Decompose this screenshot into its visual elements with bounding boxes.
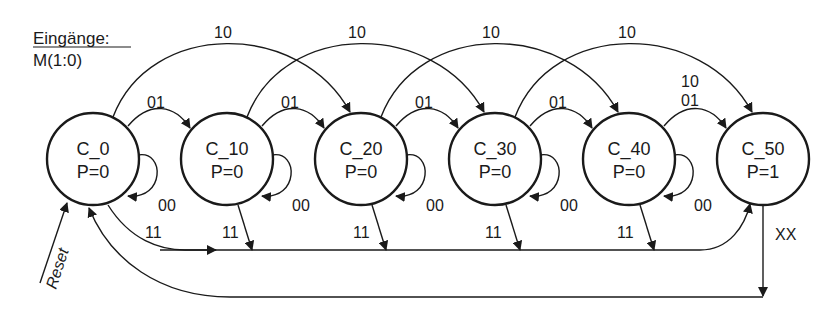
edge-c0-c10 <box>128 109 190 128</box>
label-01: 01 <box>549 94 567 111</box>
label-01-c40-c50: 01 <box>681 92 699 109</box>
state-output: P=0 <box>77 162 110 182</box>
reset-label: Reset <box>43 245 72 291</box>
state-output: P=0 <box>613 162 646 182</box>
state-name: C_50 <box>741 139 784 160</box>
state-output: P=0 <box>211 162 244 182</box>
label-11: 11 <box>617 224 634 241</box>
label-11: 11 <box>353 224 370 241</box>
label-00: 00 <box>426 197 444 214</box>
state-c30: C_30 P=0 <box>449 113 541 205</box>
state-diagram: Eingänge: M(1:0) 10 10 10 10 01 01 01 01… <box>0 0 840 315</box>
state-name: C_40 <box>607 139 650 160</box>
legend-title: Eingänge: <box>33 29 110 48</box>
label-11: 11 <box>485 224 502 241</box>
label-10: 10 <box>214 24 232 41</box>
label-00: 00 <box>560 197 578 214</box>
edge-c20-11 <box>372 205 386 250</box>
state-name: C_20 <box>339 139 382 160</box>
label-00: 00 <box>694 197 712 214</box>
edge-c20-c30 <box>396 109 458 128</box>
state-c40: C_40 P=0 <box>583 113 675 205</box>
label-00: 00 <box>292 197 310 214</box>
state-output: P=0 <box>479 162 512 182</box>
label-11: 11 <box>222 224 239 241</box>
label-01: 01 <box>147 94 165 111</box>
state-name: C_30 <box>473 139 516 160</box>
label-xx: XX <box>775 226 797 243</box>
label-01: 01 <box>415 94 433 111</box>
edge-c10-11 <box>238 205 252 250</box>
label-10: 10 <box>618 24 636 41</box>
edge-c40-11 <box>640 205 654 250</box>
edge-c40-c50 <box>664 109 726 128</box>
label-00: 00 <box>158 197 176 214</box>
state-name: C_10 <box>205 139 248 160</box>
edge-c30-11 <box>506 205 520 250</box>
state-c10: C_10 P=0 <box>181 113 273 205</box>
label-10: 10 <box>482 24 500 41</box>
state-c20: C_20 P=0 <box>315 113 407 205</box>
state-output: P=1 <box>747 162 780 182</box>
state-name: C_0 <box>76 139 109 160</box>
label-11: 11 <box>145 224 162 241</box>
legend-signal: M(1:0) <box>33 51 82 70</box>
label-10-c40-c50: 10 <box>681 73 699 90</box>
edge-xx-return-c0 <box>89 208 763 297</box>
label-10: 10 <box>348 24 366 41</box>
label-01: 01 <box>281 94 299 111</box>
edge-c10-c20 <box>262 109 324 128</box>
state-output: P=0 <box>345 162 378 182</box>
state-c50: C_50 P=1 <box>717 113 809 205</box>
edge-c30-c40 <box>530 109 592 128</box>
state-c0: C_0 P=0 <box>47 113 139 205</box>
